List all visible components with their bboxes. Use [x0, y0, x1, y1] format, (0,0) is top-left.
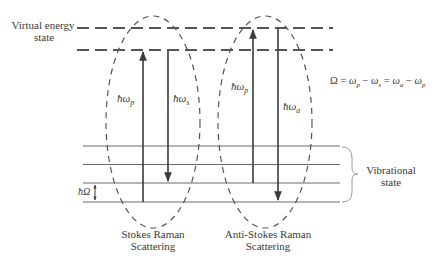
virtual-state-label: Virtual energy state — [8, 19, 78, 43]
omega-equation: Ω = ωp − ωs = ωa − ωp — [330, 75, 425, 91]
vibrational-brace-icon — [342, 147, 358, 202]
virtual-state-label-line2: state — [8, 31, 78, 43]
stokes-caption: Stokes Raman Scattering — [110, 228, 196, 252]
antistokes-caption-line2: Scattering — [218, 240, 318, 252]
stokes-pump-label: ħωp — [117, 92, 134, 109]
antistokes-ellipse — [218, 16, 312, 228]
stokes-ellipse — [106, 16, 200, 228]
antistokes-scattered-label: ħωa — [283, 100, 300, 117]
stokes-caption-line2: Scattering — [110, 240, 196, 252]
stokes-scattered-label: ħωs — [173, 92, 189, 109]
vibrational-state-label: Vibrational state — [358, 164, 424, 188]
antistokes-pump-label: ħωp — [231, 80, 248, 97]
virtual-state-label-line1: Virtual energy — [8, 19, 78, 31]
raman-energy-diagram: Virtual energy state ħωp ħωs ħωp ħωa Ω =… — [0, 0, 433, 265]
stokes-caption-line1: Stokes Raman — [110, 228, 196, 240]
vibrational-label-line2: state — [358, 176, 424, 188]
hbar-omega-label: ħΩ — [78, 186, 90, 198]
vibrational-levels — [83, 146, 340, 202]
antistokes-caption: Anti-Stokes Raman Scattering — [218, 228, 318, 252]
virtual-energy-levels — [77, 28, 333, 50]
antistokes-caption-line1: Anti-Stokes Raman — [218, 228, 318, 240]
vibrational-label-line1: Vibrational — [358, 164, 424, 176]
